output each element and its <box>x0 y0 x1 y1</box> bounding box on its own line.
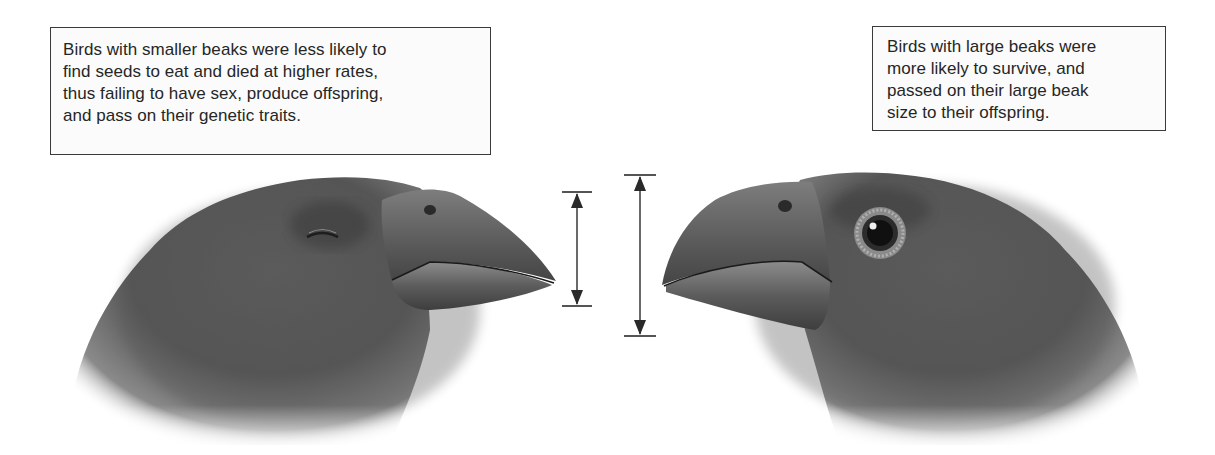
open-eye-icon <box>854 207 906 259</box>
caption-line: size to their offspring. <box>887 102 1165 124</box>
caption-line: passed on their large beak <box>887 80 1165 102</box>
diagram-stage: Birds with smaller beaks were less likel… <box>0 0 1215 455</box>
arrow-up-icon <box>571 193 583 208</box>
caption-line: Birds with smaller beaks were less likel… <box>63 39 490 61</box>
caption-small-beaks: Birds with smaller beaks were less likel… <box>50 27 491 155</box>
left-bird <box>60 177 556 455</box>
caption-line: more likely to survive, and <box>887 58 1165 80</box>
arrow-down-icon <box>571 290 583 305</box>
large-beak-depth-arrow <box>624 175 656 336</box>
caption-line: and pass on their genetic traits. <box>63 105 490 127</box>
caption-line: find seeds to eat and died at higher rat… <box>63 61 490 83</box>
caption-large-beaks: Birds with large beaks were more likely … <box>872 26 1166 131</box>
left-bird-nostril <box>424 205 436 215</box>
arrow-down-icon <box>634 320 646 335</box>
caption-line: Birds with large beaks were <box>887 36 1165 58</box>
small-beak-depth-arrow <box>562 192 592 306</box>
right-bird-nostril <box>778 200 792 212</box>
arrow-up-icon <box>634 176 646 191</box>
caption-line: thus failing to have sex, produce offspr… <box>63 83 490 105</box>
right-bird <box>662 173 1180 455</box>
